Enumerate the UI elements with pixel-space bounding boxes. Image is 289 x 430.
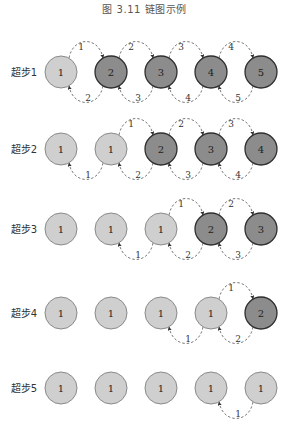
message-arc-top (119, 42, 153, 59)
vertex-value: 1 (208, 308, 214, 319)
vertex-value: 2 (158, 144, 164, 155)
arc-label: 1 (135, 250, 141, 260)
vertex-value: 5 (258, 67, 264, 78)
vertex-value: 1 (258, 383, 264, 394)
vertex-value: 4 (208, 67, 214, 78)
arc-label: 2 (235, 334, 241, 344)
arc-label: 1 (235, 409, 241, 419)
vertex-value: 1 (58, 224, 64, 235)
vertex-value: 1 (158, 383, 164, 394)
arc-label: 1 (128, 119, 134, 129)
message-arc-top (219, 283, 253, 300)
chain-diagram: 超步11234234512345超步2123123411234超步3121231… (0, 0, 289, 430)
superstep-label: 超步2 (11, 143, 37, 155)
vertex-value: 2 (258, 308, 264, 319)
message-arc-top (219, 42, 253, 59)
arc-label: 1 (185, 334, 191, 344)
vertex-value: 3 (208, 144, 214, 155)
message-arc-top (169, 199, 203, 216)
arc-label: 3 (228, 119, 234, 129)
vertex-value: 2 (108, 67, 114, 78)
superstep-label: 超步1 (11, 66, 37, 78)
message-arc-top (169, 42, 203, 59)
superstep-label: 超步4 (11, 307, 37, 319)
superstep-row: 超步5111111 (11, 372, 277, 419)
superstep-row: 超步411211112 (11, 283, 277, 344)
arc-label: 2 (178, 119, 184, 129)
vertex-value: 1 (108, 308, 114, 319)
vertex-value: 1 (108, 383, 114, 394)
superstep-label: 超步5 (11, 382, 37, 394)
arc-label: 3 (135, 93, 141, 103)
arc-label: 3 (185, 170, 191, 180)
superstep-label: 超步3 (11, 223, 37, 235)
vertex-value: 4 (258, 144, 264, 155)
vertex-value: 3 (258, 224, 264, 235)
message-arc-top (69, 42, 103, 59)
vertex-value: 3 (158, 67, 164, 78)
arc-label: 1 (228, 283, 234, 293)
vertex-value: 1 (58, 383, 64, 394)
arc-label: 5 (235, 93, 241, 103)
vertex-value: 1 (108, 224, 114, 235)
superstep-row: 超步31212311123 (11, 199, 277, 260)
vertex-value: 1 (108, 144, 114, 155)
superstep-row: 超步2123123411234 (11, 119, 277, 180)
arc-label: 4 (185, 93, 191, 103)
superstep-row: 超步11234234512345 (11, 42, 277, 103)
arc-label: 2 (85, 93, 91, 103)
message-arc-top (119, 119, 153, 136)
arc-label: 2 (185, 250, 191, 260)
arc-label: 3 (178, 42, 184, 52)
message-arc-top (169, 119, 203, 136)
message-arc-top (219, 119, 253, 136)
arc-label: 1 (178, 199, 184, 209)
vertex-value: 1 (208, 383, 214, 394)
arc-label: 2 (135, 170, 141, 180)
arc-label: 2 (228, 199, 234, 209)
arc-label: 1 (85, 170, 91, 180)
arc-label: 1 (78, 42, 84, 52)
arc-label: 2 (128, 42, 134, 52)
vertex-value: 2 (208, 224, 214, 235)
arc-label: 3 (235, 250, 241, 260)
vertex-value: 1 (158, 308, 164, 319)
vertex-value: 1 (158, 224, 164, 235)
vertex-value: 1 (58, 308, 64, 319)
arc-label: 4 (235, 170, 241, 180)
vertex-value: 1 (58, 144, 64, 155)
vertex-value: 1 (58, 67, 64, 78)
arc-label: 4 (228, 42, 234, 52)
message-arc-top (219, 199, 253, 216)
